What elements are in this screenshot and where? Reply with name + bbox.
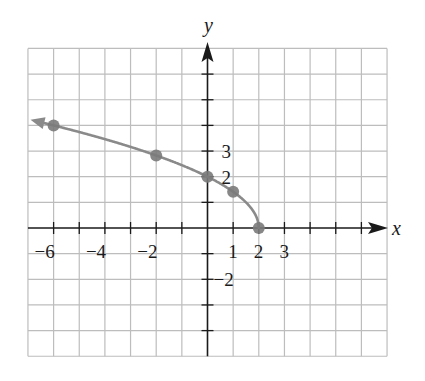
x-tick-label: −4 <box>86 241 107 262</box>
function-graph: −6−4−212332−2 x y <box>0 0 425 381</box>
data-point <box>48 119 60 131</box>
x-tick-label: 1 <box>228 241 238 262</box>
data-point <box>150 149 162 161</box>
y-tick-label: 3 <box>222 141 232 162</box>
tick-labels: −6−4−212332−2 <box>35 141 289 290</box>
x-tick-label: −6 <box>35 241 55 262</box>
data-point <box>253 222 265 234</box>
axes <box>28 42 388 356</box>
y-tick-label: −2 <box>214 269 234 290</box>
x-tick-label: 2 <box>254 241 263 262</box>
y-tick-label: 2 <box>222 167 232 188</box>
curve-left-arrow-icon <box>31 117 46 129</box>
x-axis-label: x <box>391 217 401 239</box>
x-tick-label: −2 <box>137 241 157 262</box>
x-tick-label: 3 <box>279 241 289 262</box>
data-point <box>202 171 214 183</box>
y-axis-label: y <box>202 14 213 37</box>
